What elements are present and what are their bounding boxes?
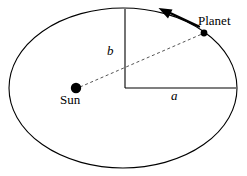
orbit-diagram: Planet Sun a b xyxy=(0,0,247,176)
velocity-arrow-head xyxy=(159,8,173,19)
planet-marker xyxy=(201,30,208,37)
sun-label: Sun xyxy=(60,93,80,106)
planet-label: Planet xyxy=(198,14,231,27)
semi-minor-axis-label: b xyxy=(107,44,114,57)
sun-planet-radius-line xyxy=(80,34,202,87)
velocity-arrow xyxy=(159,8,200,27)
semi-major-axis-label: a xyxy=(171,89,178,102)
